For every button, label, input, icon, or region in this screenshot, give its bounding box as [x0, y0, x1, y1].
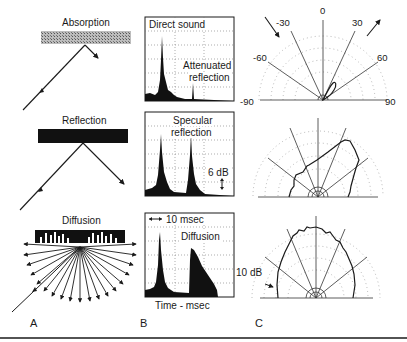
- title-reflection: Reflection: [62, 115, 106, 126]
- label-direct-sound: Direct sound: [148, 19, 206, 30]
- time-response-3: [145, 213, 234, 297]
- panel-label-a: A: [30, 318, 37, 329]
- reflection-diagram: [20, 129, 128, 210]
- reflector-surface: [38, 129, 128, 143]
- diffusion-diagram: [12, 230, 136, 312]
- label-specular-reflection: reflection: [170, 127, 213, 138]
- scale-10msec: 10 msec: [165, 214, 205, 225]
- scale-10db: 10 dB: [236, 267, 262, 278]
- angle-label-30: 30: [352, 17, 363, 28]
- angle-label-neg60: -60: [253, 52, 267, 63]
- polar-plot-diffusion: [252, 216, 380, 298]
- xlabel-time: Time - msec: [155, 300, 210, 311]
- panel-label-b: B: [140, 318, 147, 329]
- label-reflection-attenuated: reflection: [188, 72, 231, 83]
- title-diffusion: Diffusion: [62, 215, 101, 226]
- angle-label-neg30: -30: [276, 17, 290, 28]
- absorber-surface: [41, 31, 131, 44]
- angle-label-neg90: -90: [240, 96, 254, 107]
- label-specular: Specular: [172, 115, 213, 126]
- polar-plot-absorption: [259, 17, 387, 100]
- title-absorption: Absorption: [62, 17, 110, 28]
- absorption-diagram: [23, 31, 131, 110]
- diagram-canvas: [0, 0, 407, 342]
- label-diffusion-response: Diffusion: [180, 231, 221, 242]
- angle-label-0: 0: [320, 5, 325, 16]
- polar-plot-reflection: [253, 118, 383, 197]
- scale-6db: 6 dB: [207, 167, 230, 178]
- label-attenuated: Attenuated: [182, 60, 232, 71]
- angle-label-60: 60: [377, 52, 388, 63]
- angle-label-90: 90: [385, 96, 396, 107]
- panel-label-c: C: [255, 318, 263, 329]
